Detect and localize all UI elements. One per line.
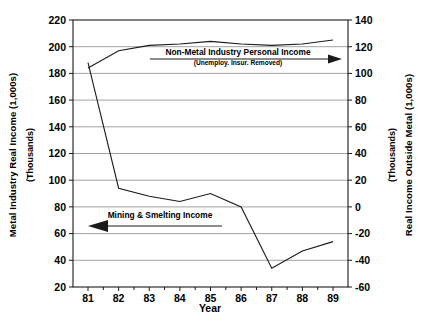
right-axis-tick-label: -60 <box>355 281 370 293</box>
right-axis-tick-label: 100 <box>355 67 373 79</box>
left-axis-tick-label: 80 <box>54 201 66 213</box>
left-axis-tick-label: 100 <box>48 174 66 186</box>
left-axis-tick-label: 160 <box>48 94 66 106</box>
left-axis-tickmarks <box>69 20 73 287</box>
right-axis-tick-label: 60 <box>355 121 367 133</box>
chart-container: 22020018016014012010080604020 1401201008… <box>0 0 422 326</box>
left-axis-subtitle: (Thousands) <box>25 128 35 182</box>
left-axis-tick-label: 20 <box>54 281 66 293</box>
x-axis-tick-label: 86 <box>235 292 247 304</box>
arrow-left-icon <box>88 220 108 232</box>
left-axis-tick-label: 140 <box>48 121 66 133</box>
left-axis-tick-labels: 22020018016014012010080604020 <box>48 14 66 293</box>
right-axis-tick-label: -40 <box>355 254 370 266</box>
right-axis-title: Real Income Outside Metal (1,000s) <box>403 74 414 236</box>
right-axis-tick-label: 120 <box>355 41 373 53</box>
right-axis-tick-label: 0 <box>355 201 361 213</box>
left-axis-tick-label: 200 <box>48 41 66 53</box>
series-line-mining-smelting-income <box>88 63 333 269</box>
non-metal-annotation-sublabel: (Unemploy. Insur. Removed) <box>194 59 283 67</box>
arrow-right-icon <box>328 55 342 64</box>
right-axis-tick-label: -20 <box>355 227 370 239</box>
x-axis-tick-label: 82 <box>113 292 125 304</box>
x-axis-tick-label: 81 <box>82 292 94 304</box>
left-axis-tick-label: 220 <box>48 14 66 26</box>
x-axis-tick-label: 87 <box>266 292 278 304</box>
right-axis-subtitle: (Thousands) <box>387 128 397 182</box>
left-axis-title: Metal Industry Real Income (1,000s) <box>7 73 18 238</box>
x-axis-title: Year <box>199 302 221 314</box>
left-axis-tick-label: 180 <box>48 67 66 79</box>
x-axis-tick-label: 83 <box>143 292 155 304</box>
left-axis-tick-label: 120 <box>48 147 66 159</box>
right-axis-tick-label: 80 <box>355 94 367 106</box>
right-axis-tick-label: 140 <box>355 14 373 26</box>
right-axis-tick-label: 20 <box>355 174 367 186</box>
chart-svg: 22020018016014012010080604020 1401201008… <box>0 0 422 326</box>
non-metal-annotation-label: Non-Metal Industry Personal Income <box>165 47 311 57</box>
right-axis-tick-labels: 140120100806040200-20-40-60 <box>355 14 373 293</box>
right-axis-tickmarks <box>348 20 352 287</box>
right-axis-tick-label: 40 <box>355 147 367 159</box>
mining-annotation-label: Mining & Smelting Income <box>108 210 213 220</box>
x-axis-tick-label: 84 <box>174 292 186 304</box>
gridlines-group <box>73 47 348 261</box>
x-axis-tickmarks <box>88 287 333 291</box>
x-axis-tick-label: 88 <box>297 292 309 304</box>
left-axis-tick-label: 60 <box>54 227 66 239</box>
left-axis-tick-label: 40 <box>54 254 66 266</box>
x-axis-tick-label: 89 <box>327 292 339 304</box>
